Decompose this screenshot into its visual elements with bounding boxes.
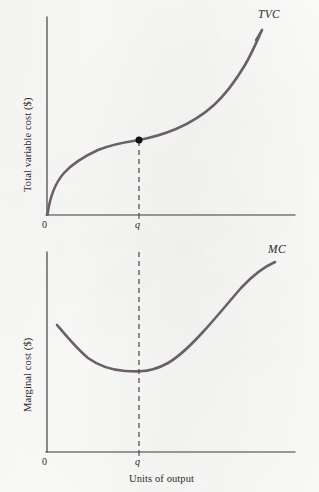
tvc-inflection-point [136,137,143,144]
economics-figure: Total variable cost ($) TVC 0 q Marginal… [0,0,319,492]
top-panel-y-axis-label: Total variable cost ($) [22,97,33,192]
mc-curve [57,262,275,371]
bottom-q-tick-label: q [135,456,140,467]
top-q-tick-label: q [135,219,140,230]
bottom-panel-y-axis-label: Marginal cost ($) [22,338,33,412]
bottom-origin-label: 0 [42,456,47,467]
bottom-panel-axes [46,252,295,452]
tvc-curve-label: TVC [258,8,280,20]
top-panel-axes [46,17,295,215]
mc-curve-label: MC [268,243,286,255]
tvc-curve [48,30,263,215]
top-origin-label: 0 [42,219,47,230]
x-axis-title: Units of output [129,473,194,484]
